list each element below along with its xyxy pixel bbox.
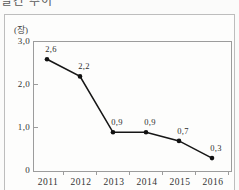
point-value-label: 0,7 [177,126,189,136]
point-value-label: 0,9 [144,117,156,127]
data-point-2013 [111,130,116,135]
chart-title-clipped: 발간 추이 [1,0,111,8]
data-point-2012 [78,74,83,79]
point-value-label: 0,9 [111,117,123,127]
x-axis-year-label: 2015 [170,177,191,187]
point-value-label: 0,3 [210,143,222,153]
plot-area: 2,62,20,90,90,70,3 [33,41,232,172]
y-axis-tick-label: 2,0 [5,79,30,89]
x-axis-tick-mark [63,172,64,175]
data-point-2014 [144,130,149,135]
data-point-2011 [45,57,50,62]
x-axis-tick-mark [96,172,97,175]
x-axis-year-label: 2014 [137,177,158,187]
line-series-svg [34,42,231,171]
x-axis-year-label: 2016 [203,177,224,187]
y-axis-tick-label: 3,0 [5,36,30,46]
x-axis-tick-mark [129,172,130,175]
y-axis-unit-label: (장) [14,23,28,36]
screenshot-root: 발간 추이 (장) 2,62,20,90,90,70,3 3,02,01,00 … [0,0,239,190]
series-line [47,59,212,158]
chart-title: 발간 추이 [1,0,111,8]
point-value-label: 2,6 [45,44,57,54]
y-axis-tick-label: 1,0 [5,122,30,132]
y-axis-tick-mark [34,127,38,128]
y-axis-tick-mark [34,84,38,85]
x-axis-year-label: 2012 [71,177,92,187]
chart-outer-box: (장) 2,62,20,90,90,70,3 3,02,01,00 201120… [4,14,235,190]
data-point-2016 [210,156,215,161]
point-value-label: 2,2 [78,61,90,71]
data-point-2015 [177,139,182,144]
y-axis-tick-label: 0 [5,165,30,175]
x-axis-year-label: 2011 [38,177,59,187]
x-axis-tick-mark [228,172,229,175]
x-axis-tick-mark [195,172,196,175]
x-axis-year-label: 2013 [104,177,125,187]
x-axis-tick-mark [162,172,163,175]
